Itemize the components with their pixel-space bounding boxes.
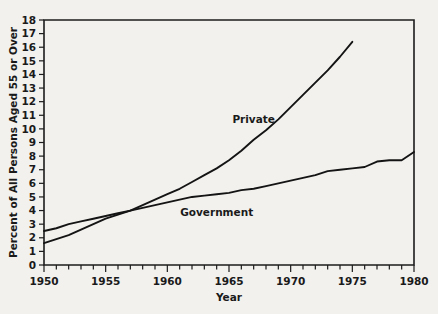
y-tick-label: 13 <box>21 82 36 94</box>
y-tick-label: 11 <box>21 109 36 121</box>
x-tick-label: 1980 <box>399 275 428 287</box>
series-line-government <box>44 152 414 231</box>
y-tick-label: 2 <box>29 231 36 243</box>
y-tick-label: 16 <box>21 41 36 53</box>
x-tick-label: 1950 <box>29 275 58 287</box>
y-tick-label: 9 <box>29 136 36 148</box>
chart-container: 0123456789101112131415161718195019551960… <box>0 0 438 314</box>
y-tick-label: 6 <box>29 177 36 189</box>
chart-axes <box>44 20 414 265</box>
y-tick-label: 14 <box>21 68 36 80</box>
x-tick-label: 1955 <box>91 275 120 287</box>
y-tick-label: 5 <box>29 191 36 203</box>
x-tick-label: 1965 <box>214 275 243 287</box>
y-tick-label: 10 <box>21 123 36 135</box>
y-tick-label: 7 <box>29 163 36 175</box>
y-tick-label: 18 <box>21 14 36 26</box>
series-label-private: Private <box>232 113 275 125</box>
chart-labels: 0123456789101112131415161718195019551960… <box>7 14 429 303</box>
line-chart: 0123456789101112131415161718195019551960… <box>0 0 438 314</box>
chart-ticks <box>39 20 414 272</box>
y-tick-label: 15 <box>21 55 36 67</box>
y-tick-label: 17 <box>21 27 36 39</box>
x-tick-label: 1970 <box>276 275 305 287</box>
x-tick-label: 1975 <box>338 275 367 287</box>
y-tick-label: 4 <box>29 204 36 216</box>
y-tick-label: 1 <box>29 245 36 257</box>
y-tick-label: 12 <box>21 95 36 107</box>
axis-frame <box>44 20 414 265</box>
y-tick-label: 3 <box>29 218 36 230</box>
x-axis-title: Year <box>215 291 243 303</box>
y-tick-label: 0 <box>29 259 36 271</box>
y-tick-label: 8 <box>29 150 36 162</box>
x-tick-label: 1960 <box>153 275 182 287</box>
y-axis-title: Percent of All Persons Aged 55 or Over <box>7 26 19 258</box>
series-label-government: Government <box>180 206 253 218</box>
